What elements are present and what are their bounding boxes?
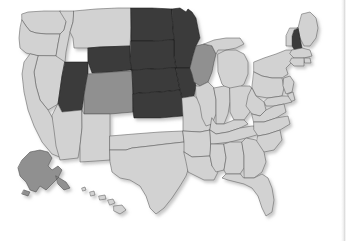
map-states-group <box>18 8 318 216</box>
state-florida[interactable] <box>222 174 274 216</box>
state-montana[interactable] <box>70 8 131 48</box>
state-south-dakota[interactable] <box>130 40 176 70</box>
state-new-jersey[interactable] <box>283 76 294 94</box>
state-wyoming[interactable] <box>88 46 131 73</box>
state-arkansas[interactable] <box>183 130 211 157</box>
state-texas[interactable] <box>110 142 190 214</box>
state-massachusetts[interactable] <box>290 48 312 58</box>
map-canvas <box>0 0 346 241</box>
state-new-york[interactable] <box>254 50 296 78</box>
state-nebraska[interactable] <box>131 68 180 94</box>
state-connecticut[interactable] <box>290 58 304 66</box>
state-kansas[interactable] <box>133 90 183 118</box>
us-choropleth-map <box>0 0 346 241</box>
state-new-mexico[interactable] <box>80 110 110 162</box>
state-indiana[interactable] <box>214 86 230 124</box>
state-north-dakota[interactable] <box>131 8 174 41</box>
state-hawaii[interactable] <box>82 187 126 214</box>
state-alabama[interactable] <box>224 142 244 174</box>
state-colorado[interactable] <box>84 71 133 114</box>
state-maine[interactable] <box>298 12 318 46</box>
state-rhode-island[interactable] <box>304 58 311 63</box>
